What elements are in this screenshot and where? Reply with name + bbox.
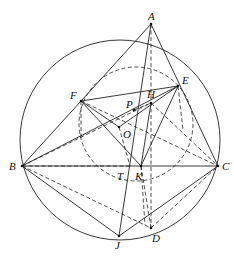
- label-B: B: [9, 160, 16, 172]
- label-A: A: [147, 10, 155, 22]
- label-O: O: [123, 128, 131, 140]
- label-K: K: [134, 170, 143, 182]
- label-D: D: [151, 232, 160, 244]
- label-T: T: [117, 170, 124, 182]
- label-H: H: [146, 88, 156, 100]
- label-C: C: [222, 160, 230, 172]
- geometry-diagram: A B C E F H P O T K J D: [0, 0, 234, 256]
- label-F: F: [69, 89, 77, 101]
- label-J: J: [115, 239, 121, 251]
- label-P: P: [125, 98, 133, 110]
- label-E: E: [181, 74, 189, 86]
